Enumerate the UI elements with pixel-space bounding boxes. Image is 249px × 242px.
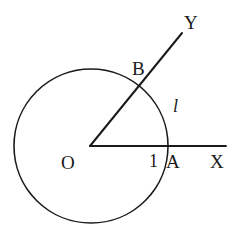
ray-oy-line (90, 33, 182, 146)
label-point-a: A (166, 152, 180, 171)
label-arc-length-l: l (173, 97, 178, 115)
label-axis-y: Y (184, 13, 198, 32)
label-origin-o: O (61, 153, 75, 172)
geometry-figure: O 1 A X B Y l (0, 0, 249, 242)
label-unit-1: 1 (149, 152, 158, 170)
diagram-canvas (0, 0, 249, 242)
label-point-b: B (132, 59, 145, 78)
label-axis-x: X (210, 152, 224, 171)
